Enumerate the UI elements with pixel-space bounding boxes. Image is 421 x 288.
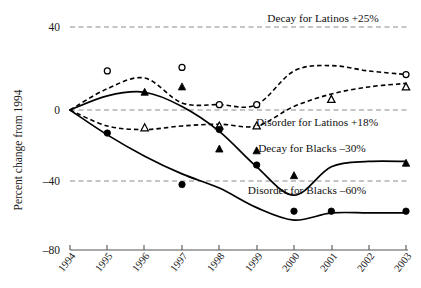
marker-decay-for-latinos-25 <box>403 72 409 78</box>
ytick-label-0: 0 <box>54 104 60 116</box>
marker-decay-for-latinos-25 <box>179 64 185 70</box>
annotation-decay-latinos: Decay for Latinos +25% <box>267 12 379 24</box>
marker-decay-for-latinos-25 <box>104 68 110 74</box>
marker-disorder-for-blacks-60 <box>216 126 222 132</box>
ytick-label-40: 40 <box>49 21 61 33</box>
y-axis-title: Percent change from 1994 <box>12 89 25 210</box>
ytick-label-minus80: –80 <box>42 244 61 256</box>
marker-decay-for-latinos-25 <box>254 102 260 108</box>
annotation-disorder-blacks: Disorder for Blacks –60% <box>248 184 367 196</box>
annotation-decay-blacks: Decay for Blacks –30% <box>258 142 366 154</box>
ytick-label-minus40: –40 <box>42 175 61 187</box>
chart-container: 40 0 –40 –80 Percent change from 1994 19… <box>0 0 421 288</box>
annotation-disorder-latinos: Disorder for Latinos +18% <box>256 116 379 128</box>
marker-decay-for-latinos-25 <box>216 102 222 108</box>
percent-change-line-chart: 40 0 –40 –80 Percent change from 1994 19… <box>0 0 421 288</box>
marker-disorder-for-blacks-60 <box>328 208 334 214</box>
marker-disorder-for-blacks-60 <box>179 181 185 187</box>
marker-disorder-for-blacks-60 <box>403 208 409 214</box>
marker-disorder-for-blacks-60 <box>253 162 259 168</box>
marker-disorder-for-blacks-60 <box>104 130 110 136</box>
marker-disorder-for-blacks-60 <box>291 208 297 214</box>
